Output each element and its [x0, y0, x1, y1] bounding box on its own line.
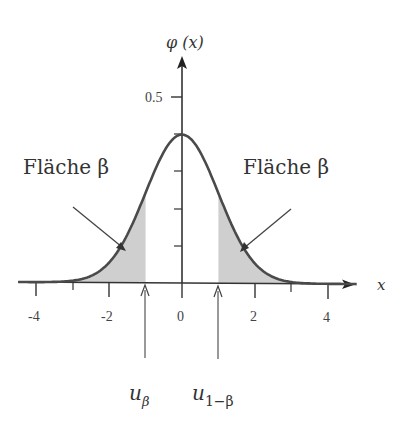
normal-distribution-chart: x φ (x) 0.5 -4 -2 0 2 4 Fläche β Fläche …: [0, 0, 412, 433]
pointer-left: [73, 207, 122, 247]
y-tick-label-05: 0.5: [145, 90, 163, 105]
x-tick-label-m4: -4: [28, 309, 40, 324]
x-axis-label: x: [377, 276, 386, 294]
u-beta-label: uβ: [129, 381, 149, 409]
y-axis-label: φ (x): [166, 33, 204, 52]
x-tick-label-4: 4: [323, 310, 330, 325]
x-tick-label-m2: -2: [101, 309, 113, 324]
u-1mbeta-label: u1−β: [192, 381, 234, 409]
x-tick-label-0: 0: [177, 309, 184, 324]
area-label-left: Fläche β: [23, 155, 109, 179]
x-tick-label-2: 2: [250, 309, 257, 324]
pointer-right: [244, 209, 291, 248]
area-label-right: Fläche β: [243, 155, 329, 179]
